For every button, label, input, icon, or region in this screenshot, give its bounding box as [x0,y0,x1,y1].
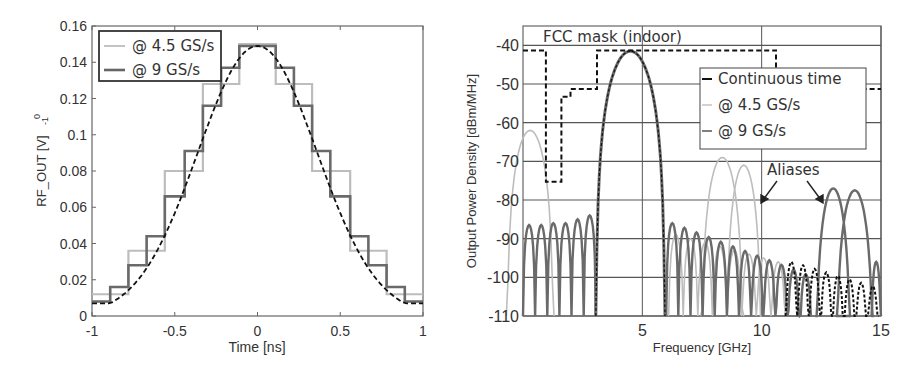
left-y-tick-label: 0.04 [60,236,87,252]
left-y-tick-label: 0 [79,308,87,324]
left-y-tick-label: 0.08 [60,163,87,179]
right-x-axis-title: Frequency [GHz] [653,340,751,355]
left-y-tick-label: 0.02 [60,272,87,288]
left-legend: @ 4.5 GS/s @ 9 GS/s [99,31,221,81]
left-y-axis-title-group: RF_OUT [V] -1 0 [32,114,50,207]
legend-label-4-5gs-right: @ 4.5 GS/s [718,96,801,114]
right-y-axis-title: Output Power Density [dBm/MHz] [464,74,479,268]
right-y-tick-label: -100 [487,269,519,286]
spectrum-chart: -40-50-60-70-80-90-100-11051015 FCC mask… [464,26,890,355]
figure: 00.020.040.060.080.10.120.140.16-1-0.500… [0,0,913,379]
left-y-tick-label: 0.16 [60,18,87,34]
legend-label-4-5gs: @ 4.5 GS/s [132,37,215,55]
right-y-tick-label: -60 [496,115,519,132]
right-y-tick-label: -70 [496,153,519,170]
right-x-tick-label: 5 [638,322,647,339]
legend-label-9gs-right: @ 9 GS/s [718,122,786,140]
right-x-tick-label: 10 [753,322,771,339]
right-y-tick-label: -40 [496,37,519,54]
left-y-axis-title: RF_OUT [V] [34,135,49,206]
legend-label-9gs: @ 9 GS/s [132,61,200,79]
left-x-tick-label: -0.5 [163,323,187,339]
left-x-tick-label: 1 [419,323,427,339]
left-y-tick-label: 0.14 [60,54,87,70]
left-y-axis-sup: 0 [32,114,42,119]
left-y-tick-label: 0.1 [68,127,88,143]
right-y-tick-label: -80 [496,192,519,209]
fcc-mask-label: FCC mask (indoor) [543,28,682,46]
left-x-tick-label: 0.5 [331,323,351,339]
left-x-tick-label: 0 [254,323,262,339]
time-domain-chart: 00.020.040.060.080.10.120.140.16-1-0.500… [32,18,427,355]
left-x-tick-label: -1 [86,323,99,339]
left-y-tick-label: 0.12 [60,91,87,107]
left-x-axis-title: Time [ns] [228,339,285,355]
right-legend: Continuous time @ 4.5 GS/s @ 9 GS/s [700,68,866,149]
left-y-tick-label: 0.06 [60,199,87,215]
right-y-tick-label: -90 [496,231,519,248]
aliases-label: Aliases [767,161,820,179]
right-x-tick-label: 15 [872,322,890,339]
right-y-tick-label: -110 [488,308,519,325]
legend-label-continuous: Continuous time [718,70,841,88]
right-y-tick-label: -50 [496,76,519,93]
